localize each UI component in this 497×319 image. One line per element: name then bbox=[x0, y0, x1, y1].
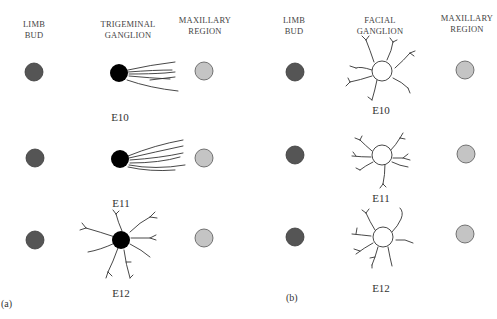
trigeminal-neurites-e10 bbox=[127, 62, 178, 91]
limb-bud-b-e10 bbox=[286, 63, 304, 81]
trigeminal-neurites-e11 bbox=[128, 140, 185, 171]
trigeminal-ganglion-e11 bbox=[111, 150, 129, 168]
trigeminal-ganglion-e10 bbox=[110, 64, 128, 82]
limb-bud-a-e12 bbox=[26, 231, 44, 249]
panel-label-a: (a) bbox=[1, 298, 12, 309]
maxillary-region-a-e11 bbox=[195, 149, 213, 167]
panel-label-b: (b) bbox=[286, 292, 298, 303]
limb-bud-b-e12 bbox=[286, 228, 304, 246]
facial-ganglion-e10 bbox=[372, 61, 392, 81]
stage-label-b-e12: E12 bbox=[361, 282, 401, 294]
limb-bud-b-e11 bbox=[286, 146, 304, 164]
stage-label-b-e11: E11 bbox=[361, 192, 401, 204]
stage-label-b-e10: E10 bbox=[361, 104, 401, 116]
facial-ganglion-e12 bbox=[373, 227, 393, 247]
diagram-canvas bbox=[0, 0, 497, 319]
maxillary-region-b-e11 bbox=[457, 145, 475, 163]
stage-label-a-e11: E11 bbox=[101, 197, 141, 209]
limb-bud-a-e10 bbox=[25, 63, 43, 81]
trigeminal-ganglion-e12 bbox=[112, 231, 130, 249]
maxillary-region-b-e12 bbox=[456, 225, 474, 243]
facial-ganglion-e11 bbox=[372, 145, 392, 165]
limb-bud-a-e11 bbox=[26, 149, 44, 167]
maxillary-region-a-e10 bbox=[195, 62, 213, 80]
stage-label-a-e10: E10 bbox=[100, 111, 140, 123]
maxillary-region-a-e12 bbox=[195, 229, 213, 247]
stage-label-a-e12: E12 bbox=[101, 287, 141, 299]
maxillary-region-b-e10 bbox=[456, 61, 474, 79]
